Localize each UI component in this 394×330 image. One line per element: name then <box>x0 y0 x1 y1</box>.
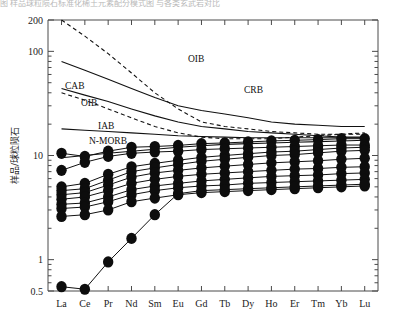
y-tick-label: 1 <box>38 254 43 265</box>
plot-frame <box>48 20 378 291</box>
data-point-marker <box>290 181 300 192</box>
ree-spider-diagram: 2001001010.5 LaCePrNdSmEuGdTbDyHoErTmYbL… <box>0 0 394 330</box>
x-axis-labels: LaCePrNdSmEuGdTbDyHoErTmYbLu <box>56 298 370 309</box>
data-point-marker <box>126 196 136 207</box>
data-point-marker <box>360 179 370 190</box>
data-point-marker <box>150 192 160 203</box>
reference-curve-oib-upper <box>62 20 365 134</box>
y-axis-ticks <box>48 20 378 291</box>
x-tick-label-ho: Ho <box>265 298 277 309</box>
x-tick-label-lu: Lu <box>359 298 370 309</box>
data-point-marker <box>80 284 90 295</box>
data-point-marker <box>220 184 230 195</box>
data-point-marker <box>126 148 136 159</box>
annotation-oib: OIB <box>188 54 204 64</box>
annotation-oib: OIB <box>81 98 97 108</box>
data-point-marker <box>56 281 66 292</box>
y-axis-labels: 2001001010.5 <box>28 15 43 297</box>
data-point-marker <box>80 209 90 220</box>
data-point-marker <box>103 204 113 215</box>
x-tick-label-eu: Eu <box>173 298 184 309</box>
sample-curves <box>56 133 370 295</box>
axis-box <box>48 20 378 291</box>
x-tick-label-gd: Gd <box>195 298 207 309</box>
data-point-marker <box>56 211 66 222</box>
data-point-marker <box>173 188 183 199</box>
data-point-marker <box>56 148 66 159</box>
x-tick-label-tb: Tb <box>219 298 230 309</box>
data-point-marker <box>313 180 323 191</box>
data-point-marker <box>150 146 160 157</box>
data-point-marker <box>150 209 160 220</box>
data-point-marker <box>243 183 253 194</box>
x-tick-label-er: Er <box>290 298 300 309</box>
annotation-crb: CRB <box>244 85 263 95</box>
y-tick-label: 100 <box>28 46 43 57</box>
reference-curve-crb <box>62 61 365 126</box>
y-tick-label: 10 <box>33 150 43 161</box>
data-point-marker <box>103 151 113 162</box>
data-point-marker <box>336 179 346 190</box>
x-tick-label-dy: Dy <box>242 298 254 309</box>
x-tick-label-yb: Yb <box>335 298 347 309</box>
y-axis-title: 样品/球粒陨石 <box>9 127 20 184</box>
y-tick-label: 0.5 <box>31 286 44 297</box>
annotation-iab: IAB <box>98 121 114 131</box>
data-point-marker <box>56 165 66 176</box>
x-tick-label-tm: Tm <box>311 298 325 309</box>
x-tick-label-ce: Ce <box>79 298 91 309</box>
x-tick-label-pr: Pr <box>104 298 114 309</box>
x-tick-label-nd: Nd <box>125 298 137 309</box>
annotation-cab: CAB <box>65 81 85 91</box>
reference-curve-labels: OIBCABCRBOIBIABN-MORB <box>65 54 263 146</box>
data-point-marker <box>103 256 113 267</box>
data-point-marker <box>266 182 276 193</box>
annotation-n-morb: N-MORB <box>89 136 127 146</box>
data-point-marker <box>196 185 206 196</box>
data-point-marker <box>126 233 136 244</box>
data-point-marker <box>80 157 90 168</box>
y-tick-label: 200 <box>28 15 43 26</box>
x-tick-label-sm: Sm <box>148 298 162 309</box>
x-tick-label-la: La <box>56 298 67 309</box>
